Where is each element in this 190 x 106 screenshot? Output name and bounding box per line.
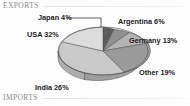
- pie-chart: Japan 4% Argentina 6% Germany 13% Other …: [0, 12, 190, 92]
- pie-slices: [59, 27, 151, 75]
- pie-label-japan: Japan 4%: [38, 14, 72, 22]
- section-header-exports-label: EXPORTS: [0, 0, 39, 12]
- section-header-imports: IMPORTS: [0, 92, 190, 104]
- section-header-imports-label: IMPORTS: [0, 92, 38, 104]
- pie-label-other: Other 19%: [139, 69, 175, 77]
- pie-label-germany: Germany 13%: [129, 37, 177, 45]
- exports-pie-chart-figure: EXPORTS: [0, 0, 190, 106]
- section-header-exports: EXPORTS: [0, 0, 190, 12]
- pie-label-usa: USA 32%: [27, 31, 59, 39]
- pie-label-argentina: Argentina 6%: [118, 18, 165, 26]
- pie-label-india: India 26%: [35, 84, 69, 92]
- section-divider-imports: [43, 98, 188, 99]
- section-divider-exports: [44, 6, 188, 7]
